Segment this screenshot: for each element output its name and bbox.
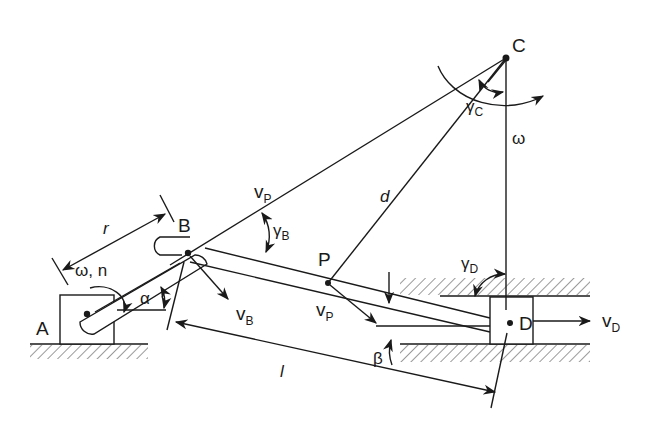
slider-crank-diagram: A B C D P r ω, n α β l d ω vB vP vP vD γ… xyxy=(0,0,649,429)
label-gammaD: γD xyxy=(461,254,479,276)
label-D: D xyxy=(519,313,533,334)
label-vP: vP xyxy=(316,299,334,324)
gammaB-arc xyxy=(262,213,269,252)
omega-C-arc xyxy=(438,66,543,106)
dim-r-tick2 xyxy=(160,195,174,222)
label-P: P xyxy=(318,249,331,270)
label-C: C xyxy=(512,35,526,56)
vB-arrow xyxy=(190,256,228,299)
diagram-canvas: A B C D P r ω, n α β l d ω vB vP vP vD γ… xyxy=(0,0,649,429)
label-omega-C: ω xyxy=(512,129,525,148)
label-alpha: α xyxy=(140,289,150,308)
label-l: l xyxy=(280,362,285,381)
label-beta: β xyxy=(373,349,383,368)
ground-A xyxy=(30,344,148,359)
label-vP-top: vP xyxy=(254,181,272,206)
label-gammaB: γB xyxy=(273,221,290,243)
label-r: r xyxy=(103,219,110,238)
label-vB: vB xyxy=(236,303,254,328)
label-d: d xyxy=(380,187,390,206)
rail-lower xyxy=(400,344,590,362)
pivot-A xyxy=(84,311,90,317)
label-B: B xyxy=(178,215,191,236)
label-A: A xyxy=(36,318,49,339)
line-CP xyxy=(328,58,506,283)
slot-B xyxy=(154,237,190,255)
pivot-D xyxy=(507,320,513,326)
beta-arrow-bottom xyxy=(389,340,392,365)
label-omega-n: ω, n xyxy=(75,261,107,280)
rail-upper xyxy=(400,278,590,296)
label-vD: vD xyxy=(602,310,621,335)
gammaC-arc xyxy=(479,80,503,92)
dim-r-tick1 xyxy=(52,258,68,285)
